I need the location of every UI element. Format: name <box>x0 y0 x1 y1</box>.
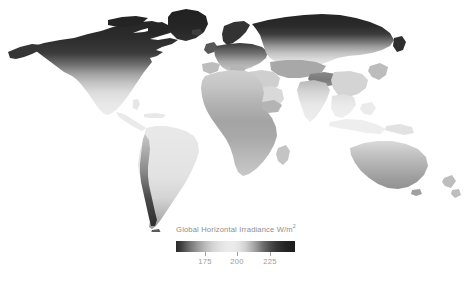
colorbar-tick-mark-225 <box>270 252 271 256</box>
world-map-svg <box>0 0 472 232</box>
colorbar-tick-label-200: 200 <box>230 257 244 266</box>
region-new-guinea <box>385 124 414 135</box>
region-eastern-china <box>331 71 368 97</box>
colorbar-tick-label-175: 175 <box>198 257 212 266</box>
region-caribbean-islands <box>144 113 166 118</box>
region-north-america <box>8 9 208 131</box>
world-map <box>0 0 472 232</box>
legend-title-text: Global Horizontal Irradiance W/m <box>176 225 293 234</box>
region-asia <box>247 14 414 135</box>
colorbar-container <box>176 241 295 252</box>
region-indonesia-archipelago <box>329 119 386 134</box>
region-tasmania <box>411 189 422 196</box>
colorbar-tick-mark-200 <box>237 252 238 256</box>
region-south-america <box>138 126 199 232</box>
region-siberia-northern-asia <box>252 14 394 67</box>
region-florida-peninsula <box>133 99 140 110</box>
region-alaska <box>8 44 42 59</box>
region-korea-japan <box>368 63 388 80</box>
region-india-subcontinent <box>297 80 330 122</box>
irradiance-map-figure: Global Horizontal Irradiance W/m2 175 20… <box>0 0 472 282</box>
region-scandinavia <box>222 21 250 45</box>
legend-title-exponent: 2 <box>293 223 296 229</box>
colorbar-tick-label-225: 225 <box>263 257 277 266</box>
colorbar-tick-mark-175 <box>205 252 206 256</box>
region-greenland <box>168 9 208 41</box>
region-australia-mainland <box>350 141 428 189</box>
region-new-zealand <box>442 175 461 198</box>
region-philippines <box>360 102 376 115</box>
region-southeast-asia-mainland <box>331 94 356 118</box>
region-oceania <box>350 141 461 198</box>
legend-title: Global Horizontal Irradiance W/m2 <box>0 225 472 234</box>
region-central-america <box>116 112 146 131</box>
region-kamchatka <box>393 36 406 52</box>
region-iberian-peninsula <box>202 62 220 74</box>
colorbar-gradient <box>176 241 295 252</box>
region-madagascar <box>276 145 290 165</box>
colorbar-legend: Global Horizontal Irradiance W/m2 175 20… <box>0 222 472 282</box>
